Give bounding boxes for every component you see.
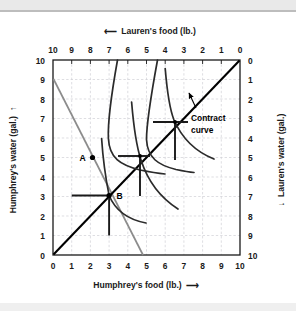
- right-tick-7: 7: [248, 192, 253, 202]
- point-a-dot: [90, 155, 95, 160]
- bottom-tick-10: 10: [235, 261, 245, 271]
- tangency-dot-b: [107, 193, 112, 198]
- contract-curve-leader-arrow: [189, 93, 196, 108]
- top-tick-5: 5: [144, 45, 149, 55]
- top-tick-9: 1: [219, 45, 224, 55]
- left-tick-8: 8: [40, 95, 45, 105]
- top-axis-arrow: ⟵: [104, 26, 117, 36]
- right-axis-arrow: ↓: [276, 202, 286, 206]
- bottom-tick-6: 6: [163, 261, 168, 271]
- right-tick-5: 5: [248, 153, 253, 163]
- bottom-tick-2: 2: [88, 261, 93, 271]
- top-axis-label: Lauren's food (lb.): [121, 26, 196, 36]
- top-tick-7: 3: [182, 45, 187, 55]
- top-tick-6: 4: [163, 45, 168, 55]
- bottom-tick-1: 1: [69, 261, 74, 271]
- right-tick-10: 10: [248, 251, 258, 261]
- top-tick-10: 0: [238, 45, 243, 55]
- top-tick-8: 2: [200, 45, 205, 55]
- bottom-tick-5: 5: [144, 261, 149, 271]
- tangency-dot-upper: [173, 120, 177, 124]
- bottom-axis-arrow: ⟶: [186, 280, 199, 290]
- left-tick-5: 5: [40, 153, 45, 163]
- left-tick-6: 6: [40, 134, 45, 144]
- left-tick-1: 1: [40, 231, 45, 241]
- bottom-axis-label: Humphrey's food (lb.): [93, 280, 182, 290]
- right-tick-8: 8: [248, 212, 253, 222]
- left-axis-label: Humphrey's water (gal.): [8, 116, 18, 213]
- tangency-dot-mid: [138, 154, 142, 158]
- right-axis-title: ↓Lauren's water (gal.): [276, 114, 286, 207]
- right-axis-label: Lauren's water (gal.): [276, 114, 286, 197]
- top-tick-labels: 10 9 8 7 6 5 4 3 2 1 0: [48, 45, 242, 55]
- left-tick-labels: 10 9 8 7 6 5 4 3 2 1 0: [36, 56, 46, 261]
- bottom-tick-3: 3: [107, 261, 112, 271]
- left-tick-3: 3: [40, 192, 45, 202]
- bottom-tick-0: 0: [51, 261, 56, 271]
- bottom-tick-7: 7: [182, 261, 187, 271]
- left-tick-9: 9: [40, 75, 45, 85]
- right-tick-9: 9: [248, 231, 253, 241]
- top-tick-3: 7: [107, 45, 112, 55]
- right-tick-1: 1: [248, 75, 253, 85]
- contract-curve-label-line2: curve: [191, 125, 214, 135]
- right-tick-4: 4: [248, 134, 253, 144]
- edgeworth-box-figure: A B Contract curve ⟵Lauren's food (lb.) …: [0, 0, 296, 311]
- bottom-tick-4: 4: [125, 261, 130, 271]
- right-tick-labels: 0 1 2 3 4 5 6 7 8 9 10: [248, 56, 258, 261]
- chart-canvas: A B Contract curve ⟵Lauren's food (lb.) …: [0, 0, 296, 311]
- left-tick-2: 2: [40, 212, 45, 222]
- bottom-tick-8: 8: [200, 261, 205, 271]
- contract-curve-label-line1: Contract: [191, 113, 226, 123]
- right-tick-0: 0: [248, 56, 253, 66]
- top-tick-0: 10: [48, 45, 58, 55]
- left-axis-title: Humphrey's water (gal.)↑: [8, 107, 18, 213]
- bottom-tick-labels: 0 1 2 3 4 5 6 7 8 9 10: [51, 261, 245, 271]
- bottom-axis-title: Humphrey's food (lb.)⟶: [93, 280, 198, 290]
- top-tick-4: 6: [125, 45, 130, 55]
- left-tick-7: 7: [40, 114, 45, 124]
- top-tick-1: 9: [69, 45, 74, 55]
- left-tick-4: 4: [40, 173, 45, 183]
- right-tick-3: 3: [248, 114, 253, 124]
- top-axis-title: ⟵Lauren's food (lb.): [104, 26, 196, 36]
- top-tick-2: 8: [88, 45, 93, 55]
- right-tick-2: 2: [248, 95, 253, 105]
- left-tick-0: 0: [40, 251, 45, 261]
- bottom-tick-9: 9: [219, 261, 224, 271]
- right-tick-6: 6: [248, 173, 253, 183]
- point-a-label: A: [79, 153, 85, 163]
- left-axis-arrow: ↑: [8, 107, 18, 111]
- point-b-label: B: [117, 191, 123, 201]
- left-tick-10: 10: [36, 56, 46, 66]
